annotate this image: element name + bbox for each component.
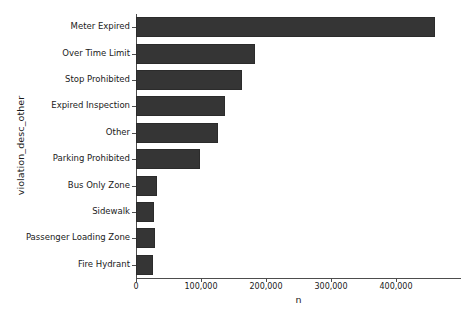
bar (136, 202, 154, 222)
x-axis-tick-label: 300,000 (314, 283, 347, 291)
category-tick (132, 80, 136, 81)
bar-rect (136, 96, 225, 116)
bar (136, 17, 435, 37)
bar (136, 255, 153, 275)
bar-rect (136, 17, 435, 37)
category-label: Passenger Loading Zone (26, 233, 130, 242)
category-tick (132, 186, 136, 187)
category-tick (132, 238, 136, 239)
y-axis-title: violation_desc_other (14, 0, 28, 290)
y-axis-title-text: violation_desc_other (16, 95, 27, 195)
category-label: Expired Inspection (51, 101, 130, 110)
category-tick (132, 133, 136, 134)
bar (136, 123, 218, 143)
category-tick (132, 212, 136, 213)
category-label: Bus Only Zone (68, 181, 130, 190)
bar (136, 149, 200, 169)
category-tick (132, 54, 136, 55)
bar (136, 176, 157, 196)
bar-rect (136, 255, 153, 275)
x-axis-tick-label: 200,000 (249, 283, 282, 291)
bar-rect (136, 44, 255, 64)
category-tick (132, 27, 136, 28)
category-label: Other (106, 128, 130, 137)
bar (136, 70, 242, 90)
category-label: Stop Prohibited (65, 75, 130, 84)
category-label: Fire Hydrant (78, 260, 130, 269)
bar (136, 96, 225, 116)
bar-rect (136, 70, 242, 90)
bar-rect (136, 202, 154, 222)
x-axis-tick-label: 0 (133, 283, 138, 291)
category-label: Sidewalk (92, 207, 130, 216)
x-axis-tick-label: 100,000 (184, 283, 217, 291)
category-tick (132, 106, 136, 107)
x-axis-line (136, 278, 461, 279)
bar-rect (136, 228, 155, 248)
bar (136, 44, 255, 64)
bar-rect (136, 123, 218, 143)
bar-rect (136, 149, 200, 169)
bar (136, 228, 155, 248)
x-axis-tick-label: 400,000 (379, 283, 412, 291)
category-tick (132, 265, 136, 266)
category-label: Parking Prohibited (53, 154, 130, 163)
bar-rect (136, 176, 157, 196)
category-label: Over Time Limit (62, 49, 130, 58)
bar-chart: violation_desc_other Meter ExpiredOver T… (0, 0, 467, 318)
category-tick (132, 159, 136, 160)
category-label: Meter Expired (71, 22, 130, 31)
x-axis-title: n (136, 294, 461, 305)
